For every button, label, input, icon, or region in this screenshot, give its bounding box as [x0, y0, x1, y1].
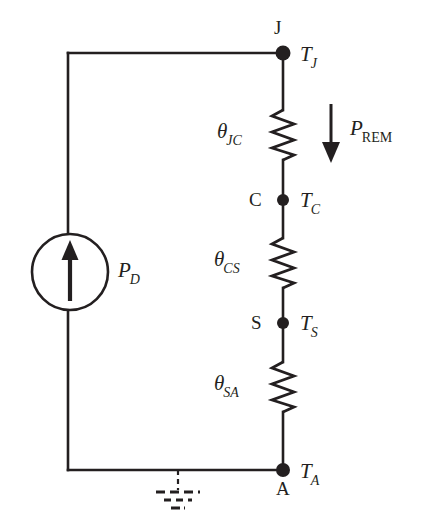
- node-letter-c: C: [249, 190, 262, 209]
- current-source-symbol: [32, 234, 108, 310]
- label-power-dissipated: PD: [118, 260, 141, 284]
- label-power-removed-sub: REM: [362, 130, 392, 145]
- resistor-theta-cs: [272, 238, 294, 288]
- label-theta-sa-sub: SA: [223, 385, 239, 400]
- label-temperature-junction-sub: J: [311, 56, 317, 71]
- node-letter-a: A: [276, 479, 290, 498]
- resistor-theta-sa: [272, 362, 294, 412]
- label-temperature-ambient-sub: A: [311, 473, 320, 488]
- label-temperature-ambient: TA: [300, 461, 320, 485]
- power-flow-arrow-p-rem: [322, 104, 340, 163]
- label-theta-jc-sub: JC: [226, 133, 242, 148]
- label-power-removed: PREM: [350, 118, 393, 142]
- label-temperature-case: TC: [300, 190, 321, 214]
- label-temperature-sink: TS: [300, 313, 319, 337]
- ground-symbol: [156, 470, 200, 508]
- label-temperature-ambient-base: T: [300, 459, 312, 483]
- label-power-dissipated-base: P: [118, 258, 131, 282]
- node-letter-j: J: [274, 18, 281, 37]
- label-theta-cs: θCS: [214, 249, 241, 273]
- label-power-dissipated-sub: D: [130, 272, 140, 287]
- node-dot-c: [277, 194, 289, 206]
- thermal-circuit-diagram: PD J TJ C TC S TS A TA θJC θCS θSA PREM: [0, 0, 429, 518]
- label-theta-jc: θJC: [217, 121, 243, 145]
- node-dot-a: [276, 463, 290, 477]
- label-temperature-case-sub: C: [311, 202, 320, 217]
- label-theta-sa: θSA: [214, 373, 240, 397]
- label-temperature-sink-sub: S: [311, 325, 318, 340]
- label-temperature-sink-base: T: [300, 311, 312, 335]
- label-theta-cs-sub: CS: [223, 261, 239, 276]
- resistor-theta-jc: [272, 110, 294, 160]
- node-dot-s: [277, 317, 289, 329]
- label-temperature-junction-base: T: [300, 42, 312, 66]
- label-temperature-case-base: T: [300, 188, 312, 212]
- node-dot-j: [276, 46, 291, 61]
- label-power-removed-base: P: [350, 116, 363, 140]
- label-temperature-junction: TJ: [300, 44, 318, 68]
- node-letter-s: S: [251, 313, 262, 332]
